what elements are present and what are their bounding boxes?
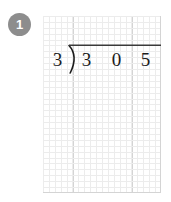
dividend-digit-3: 5 xyxy=(131,45,160,75)
dividend-digit-1: 3 xyxy=(72,45,101,75)
dividend-digit-2: 0 xyxy=(102,45,131,75)
problem-number-badge: 1 xyxy=(8,13,31,36)
long-division-expression: 3 3 0 5 xyxy=(43,45,161,75)
worksheet-problem: 1 3 3 0 5 xyxy=(0,0,171,202)
